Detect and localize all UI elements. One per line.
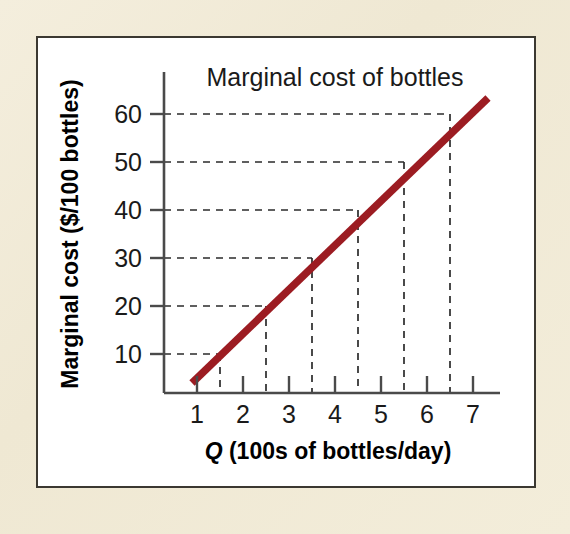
x-tick-labels: 1 2 3 4 5 6 7 [190,400,480,428]
marginal-cost-chart: 60 50 40 30 20 10 1 2 3 4 5 6 7 Marginal… [38,38,534,486]
x-axis-title-rest: (100s of bottles/day) [223,438,452,464]
y-tick-label: 50 [114,148,142,176]
dashed-guide-lines [164,114,450,392]
marginal-cost-line [192,98,488,383]
figure-canvas: 60 50 40 30 20 10 1 2 3 4 5 6 7 Marginal… [0,0,570,534]
x-tick-label: 3 [282,400,296,428]
x-axis-title-symbol: Q [205,438,223,464]
chart-panel: 60 50 40 30 20 10 1 2 3 4 5 6 7 Marginal… [36,36,536,488]
y-tick-label: 40 [114,196,142,224]
x-tick-label: 2 [236,400,250,428]
y-tick-label: 60 [114,100,142,128]
y-tick-label: 20 [114,292,142,320]
y-tick-label: 30 [114,244,142,272]
y-tick-label: 10 [114,340,142,368]
x-tick-label: 7 [466,400,480,428]
y-tick-labels: 60 50 40 30 20 10 [114,100,142,368]
x-tick-label: 4 [328,400,342,428]
y-axis-ticks [150,114,164,354]
x-tick-label: 5 [374,400,388,428]
x-tick-label: 1 [190,400,204,428]
x-tick-label: 6 [420,400,434,428]
x-axis-ticks-major [197,376,473,393]
chart-title: Marginal cost of bottles [206,63,463,91]
y-axis-title: Marginal cost ($/100 bottles) [57,79,83,388]
x-axis-title: Q (100s of bottles/day) [205,438,452,464]
